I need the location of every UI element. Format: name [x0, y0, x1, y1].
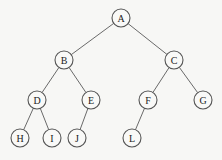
node-g: G [194, 91, 212, 109]
edge-c-g [179, 67, 197, 92]
edge-c-f [153, 68, 169, 93]
edge-b-e [69, 67, 86, 92]
node-label: I [50, 133, 53, 144]
node-f: F [139, 91, 157, 109]
edge-e-j [80, 108, 88, 129]
node-c: C [165, 51, 183, 69]
edge-a-b [71, 23, 114, 54]
node-i: I [43, 129, 61, 147]
node-label: H [16, 133, 23, 144]
edges-layer [24, 23, 198, 129]
tree-diagram: ABCDEFGHIJL [0, 0, 222, 160]
node-h: H [11, 129, 29, 147]
node-label: F [145, 95, 151, 106]
node-label: B [61, 55, 68, 66]
node-label: G [199, 95, 206, 106]
edge-d-i [40, 108, 48, 129]
node-j: J [68, 129, 86, 147]
node-label: A [117, 13, 125, 24]
node-label: J [75, 133, 79, 144]
node-b: B [55, 51, 73, 69]
nodes-layer: ABCDEFGHIJL [11, 9, 212, 147]
node-l: L [123, 129, 141, 147]
node-d: D [28, 91, 46, 109]
node-e: E [82, 91, 100, 109]
node-label: E [88, 95, 94, 106]
node-label: L [129, 133, 135, 144]
node-label: C [171, 55, 178, 66]
tree-svg: ABCDEFGHIJL [0, 0, 222, 160]
node-label: D [33, 95, 40, 106]
edge-b-d [42, 67, 59, 92]
edge-f-l [135, 108, 144, 129]
edge-a-c [128, 24, 167, 55]
node-a: A [112, 9, 130, 27]
edge-d-h [24, 108, 34, 130]
